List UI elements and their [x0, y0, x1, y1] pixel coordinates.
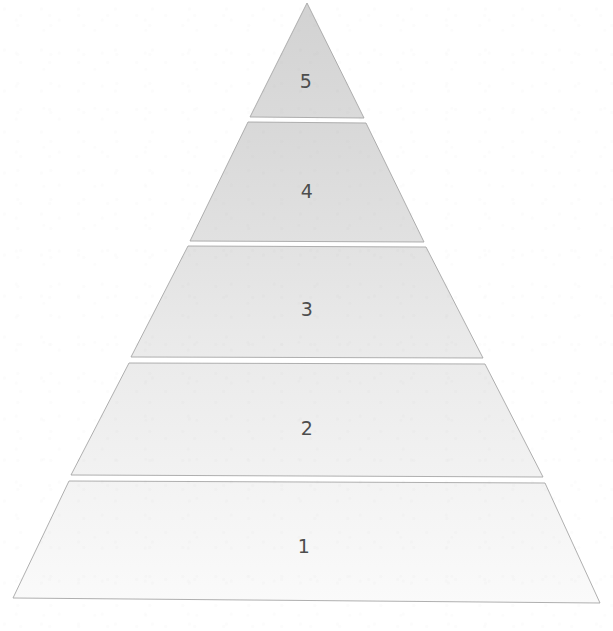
pyramid-level-5: [250, 3, 364, 118]
pyramid-level-5-label: 5: [286, 72, 326, 91]
scanned-page: 5 4 3 2 1: [0, 0, 613, 631]
pyramid-level-4-label: 4: [287, 182, 327, 201]
pyramid-level-2-label: 2: [287, 419, 327, 438]
pyramid-level-1-label: 1: [284, 537, 324, 556]
pyramid-level-3-label: 3: [287, 300, 327, 319]
